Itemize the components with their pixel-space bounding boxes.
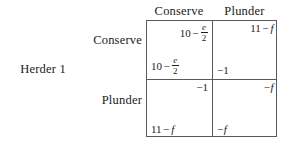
row-player-payoff: 11 − f (151, 124, 175, 135)
table-cell-plunder-plunder: − f − f (213, 80, 278, 138)
fraction: e 2 (201, 23, 208, 43)
minus-operator: − (162, 124, 171, 135)
payoff-integer: 1 (223, 65, 229, 76)
payoff-grid: 10 − e 2 10 − e 2 (146, 20, 277, 137)
column-player-payoff: 11 − f (250, 23, 274, 34)
payoff-matrix-figure: Herder 1 Conserve Plunder Conserve Plund… (0, 0, 292, 145)
fraction: e 2 (172, 56, 179, 76)
payoff-integer: 10 (151, 61, 162, 72)
minus-operator: − (162, 61, 171, 72)
minus-operator: − (261, 23, 270, 34)
payoff-integer: 11 (151, 124, 162, 135)
table-cell-conserve-plunder: 11 − f − 1 (213, 21, 278, 79)
payoff-variable: f (171, 124, 175, 135)
fraction-denominator: 2 (201, 33, 208, 43)
column-player-payoff: 10 − e 2 (180, 23, 208, 43)
payoff-variable: f (223, 124, 227, 135)
fraction-numerator: e (201, 23, 207, 33)
row-player-payoff: 10 − e 2 (151, 56, 179, 76)
row-strategy-label-plunder: Plunder (76, 93, 142, 108)
column-strategy-label-conserve: Conserve (146, 4, 212, 19)
row-player-payoff: − f (217, 124, 227, 135)
payoff-variable: f (270, 82, 274, 93)
row-strategy-label-conserve: Conserve (76, 33, 142, 48)
payoff-integer: 10 (180, 28, 191, 39)
payoff-variable: f (270, 23, 274, 34)
table-cell-plunder-conserve: − 1 11 − f (147, 80, 212, 138)
fraction-denominator: 2 (172, 66, 179, 76)
minus-operator: − (191, 28, 200, 39)
fraction-numerator: e (172, 56, 178, 66)
column-player-payoff: − f (264, 82, 274, 93)
row-player-label: Herder 1 (4, 62, 82, 77)
row-player-payoff: − 1 (217, 65, 229, 76)
table-cell-conserve-conserve: 10 − e 2 10 − e 2 (147, 21, 212, 79)
column-strategy-label-plunder: Plunder (212, 4, 277, 19)
payoff-integer: 11 (250, 23, 261, 34)
payoff-integer: 1 (203, 82, 209, 93)
column-player-payoff: − 1 (196, 82, 208, 93)
